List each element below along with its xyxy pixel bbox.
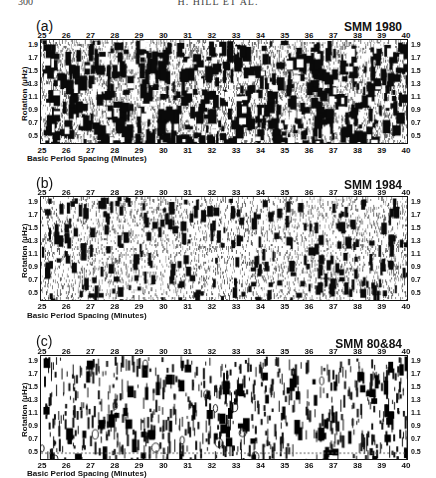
y-tick-label-left: 1.1	[20, 409, 38, 416]
x-tick-label: 35	[280, 461, 289, 470]
x-tick-label: 38	[353, 347, 362, 356]
y-tick-label-left: 0.5	[20, 448, 38, 455]
y-tick-label-right: 1.1	[411, 409, 421, 416]
x-tick-label: 37	[329, 461, 338, 470]
x-tick-label: 33	[232, 461, 241, 470]
figure-panel-c: (c) SMM 80&84 Basic Period Spacing (Minu…	[0, 0, 436, 478]
x-tick-label: 32	[207, 347, 216, 356]
y-tick-label-right: 0.9	[411, 422, 421, 429]
x-axis-label: Basic Period Spacing (Minutes)	[27, 469, 147, 478]
x-tick-label: 40	[402, 461, 411, 470]
y-tick-label-left: 1.7	[20, 370, 38, 377]
x-tick-label: 40	[402, 347, 411, 356]
panel-title: SMM 80&84	[335, 337, 402, 351]
x-tick-label: 29	[135, 347, 144, 356]
y-tick-label-left: 1.3	[20, 396, 38, 403]
y-tick-label-right: 0.5	[411, 448, 421, 455]
x-tick-label: 37	[329, 347, 338, 356]
x-tick-label: 26	[62, 461, 71, 470]
x-tick-label: 27	[86, 347, 95, 356]
y-tick-label-right: 1.9	[411, 357, 421, 364]
y-tick-label-left: 0.9	[20, 422, 38, 429]
y-tick-label-left: 1.9	[20, 357, 38, 364]
x-tick-label: 31	[183, 347, 192, 356]
x-tick-label: 28	[110, 347, 119, 356]
y-tick-label-right: 1.5	[411, 383, 421, 390]
x-tick-label: 32	[207, 461, 216, 470]
x-tick-label: 31	[183, 461, 192, 470]
x-tick-label: 27	[86, 461, 95, 470]
x-tick-label: 26	[62, 347, 71, 356]
x-tick-label: 34	[256, 347, 265, 356]
x-tick-label: 29	[135, 461, 144, 470]
y-tick-label-left: 0.7	[20, 435, 38, 442]
x-tick-label: 39	[377, 347, 386, 356]
x-tick-label: 34	[256, 461, 265, 470]
x-tick-label: 30	[159, 347, 168, 356]
x-tick-label: 38	[353, 461, 362, 470]
x-tick-label: 28	[110, 461, 119, 470]
x-tick-label: 36	[304, 461, 313, 470]
x-tick-label: 30	[159, 461, 168, 470]
x-tick-label: 36	[304, 347, 313, 356]
x-tick-label: 33	[232, 347, 241, 356]
y-tick-label-left: 1.5	[20, 383, 38, 390]
y-tick-label-right: 1.3	[411, 396, 421, 403]
x-tick-label: 25	[38, 347, 47, 356]
x-tick-label: 25	[38, 461, 47, 470]
x-tick-label: 35	[280, 347, 289, 356]
y-tick-label-right: 1.7	[411, 370, 421, 377]
contour-map	[40, 355, 408, 460]
x-tick-label: 39	[377, 461, 386, 470]
y-tick-label-right: 0.7	[411, 435, 421, 442]
